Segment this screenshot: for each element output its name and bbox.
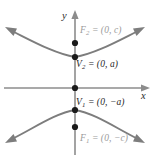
upper-left-arrowhead-icon (5, 27, 17, 36)
label-vertex-1-coords: = (0, −a) (85, 97, 124, 107)
label-vertex-2-coords: = (0, a) (85, 59, 118, 69)
upper-right-arrowhead-icon (133, 27, 145, 36)
label-vertex-1: V1 = (0, −a) (76, 98, 125, 108)
label-vertex-2: V2 = (0, a) (76, 60, 118, 70)
label-focus-2: F2 = (0, c) (80, 26, 122, 36)
label-focus-1-subscript: 1 (86, 137, 90, 144)
hyperbola-figure: y x F2 = (0, c) V2 = (0, a) V1 = (0, −a)… (0, 0, 156, 160)
y-axis-label: y (61, 10, 67, 21)
label-focus-1-coords: = (0, −c) (89, 133, 128, 143)
point-focus-2 (72, 40, 78, 46)
label-focus-2-subscript: 2 (86, 29, 90, 36)
lower-right-arrowhead-icon (133, 134, 145, 143)
point-origin (72, 85, 78, 91)
point-focus-1 (72, 124, 78, 130)
point-vertex-1 (72, 107, 78, 113)
figure-canvas: y x (0, 0, 156, 160)
y-axis (71, 10, 78, 155)
label-focus-1: F1 = (0, −c) (80, 134, 128, 144)
y-axis-arrowhead-icon (71, 10, 78, 19)
x-axis-label: x (140, 90, 146, 101)
lower-left-arrowhead-icon (5, 134, 17, 143)
label-vertex-1-subscript: 1 (82, 101, 86, 108)
label-focus-2-coords: = (0, c) (89, 25, 121, 35)
label-vertex-2-subscript: 2 (82, 63, 86, 70)
